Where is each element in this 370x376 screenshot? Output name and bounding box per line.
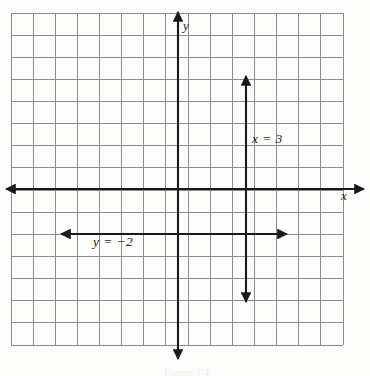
coordinate-plane-figure: graph [0,0,370,376]
graph-canvas [0,0,370,376]
figure-caption: Figure 7-1 [132,366,242,376]
line-label-y-equals-negative-2: y = −2 [93,234,133,250]
x-axis-label: x [341,188,347,204]
y-axis-label: y [183,18,189,34]
line-label-x-equals-3: x = 3 [252,131,283,147]
